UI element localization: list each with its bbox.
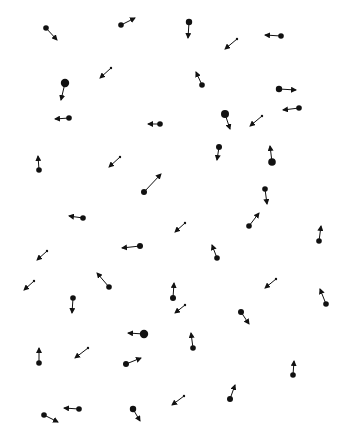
particle-dot (80, 215, 86, 221)
particle-dot (87, 347, 89, 349)
particle-dot (261, 115, 263, 117)
particle-dot (262, 186, 268, 192)
particle-dot (296, 105, 302, 111)
particle-dot (118, 22, 124, 28)
particle-dot (157, 121, 163, 127)
particle-dot (123, 361, 129, 367)
particle-dot (46, 250, 48, 252)
particle-dot (190, 345, 196, 351)
particle-dot (36, 167, 42, 173)
particle-dot (238, 309, 244, 315)
diagram-background (0, 0, 349, 437)
particle-dot (316, 238, 322, 244)
particle-dot (216, 144, 222, 150)
particle-dot (290, 372, 296, 378)
particle-dot (61, 79, 69, 87)
particle-dot (33, 280, 35, 282)
particle-dot (214, 255, 220, 261)
particle-dot (170, 295, 176, 301)
particle-dot (76, 406, 82, 412)
particle-dot (66, 115, 72, 121)
particle-diagram (0, 0, 349, 437)
particle-dot (221, 110, 229, 118)
particle-dot (137, 243, 143, 249)
particle-dot (70, 295, 76, 301)
particle-dot (36, 360, 42, 366)
particle-dot (106, 284, 112, 290)
particle-dot (184, 222, 186, 224)
particle-dot (275, 278, 277, 280)
particle-dot (141, 189, 147, 195)
particle-dot (43, 25, 49, 31)
particle-dot (278, 33, 284, 39)
particle-dot (119, 156, 121, 158)
particle-dot (236, 38, 238, 40)
particle-dot (276, 86, 282, 92)
particle-dot (199, 82, 205, 88)
particle-dot (110, 67, 112, 69)
particle-dot (130, 406, 136, 412)
particle-dot (227, 396, 233, 402)
particle-dot (186, 19, 192, 25)
particle-dot (184, 304, 186, 306)
particle-dot (268, 158, 276, 166)
particle-dot (41, 412, 47, 418)
particle-dot (140, 330, 148, 338)
particle-dot (323, 301, 329, 307)
particle-dot (246, 223, 252, 229)
particle-dot (183, 395, 185, 397)
